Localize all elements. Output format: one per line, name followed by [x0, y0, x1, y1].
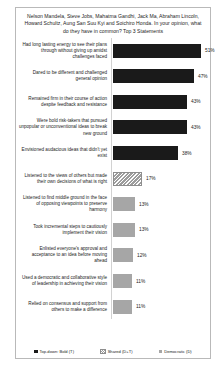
legend-label: Shared (D+T)	[108, 349, 133, 354]
bar-row: Remained firm in their course of action …	[18, 89, 206, 115]
bar-fill	[113, 248, 133, 262]
bar-track: 12%	[111, 243, 206, 269]
bar-value-label: 47%	[198, 74, 208, 79]
bar-category-label: Took incremental steps to cautiously imp…	[18, 224, 111, 236]
legend-item-top-down: Top-down: Bold (T)	[34, 349, 74, 354]
bar-track: 11%	[111, 268, 206, 294]
bar-value-label: 38%	[182, 151, 192, 156]
bar-row: Took incremental steps to cautiously imp…	[18, 217, 206, 243]
bar-category-label: Remained firm in their course of action …	[18, 96, 111, 108]
legend-item-shared: Shared (D+T)	[100, 349, 132, 354]
bar-row: Were bold risk-takers that pursued unpop…	[18, 115, 206, 141]
bar-track: 13%	[111, 191, 206, 217]
bar-category-label: Enlisted everyone's approval and accepta…	[18, 246, 111, 264]
bar-value-label: 17%	[146, 176, 156, 181]
bar-fill	[113, 300, 132, 314]
bar-value-label: 43%	[191, 125, 201, 130]
bar-fill	[113, 120, 187, 134]
bar-category-label: Dared to be different and challenged gen…	[18, 70, 111, 82]
bar-category-label: Used a democratic and collaborative styl…	[18, 275, 111, 287]
bar-category-label: Were bold risk-takers that pursued unpop…	[18, 118, 111, 136]
bar-row: Used a democratic and collaborative styl…	[18, 268, 206, 294]
bar-value-label: 43%	[191, 99, 201, 104]
bar-value-label: 13%	[139, 227, 149, 232]
bar-value-label: 13%	[139, 202, 149, 207]
bar-fill	[113, 95, 187, 109]
bar-chart-plot-area: Had long lasting energy to see their pla…	[16, 38, 210, 320]
bar-fill	[113, 172, 142, 186]
legend-swatch-icon	[34, 350, 37, 353]
bar-value-label: 11%	[136, 304, 145, 309]
bar-row: Enlisted everyone's approval and accepta…	[18, 243, 206, 269]
bar-category-label: Had long lasting energy to see their pla…	[18, 42, 111, 60]
bar-row: Relied on consensus and support from oth…	[18, 294, 206, 320]
bar-track: 43%	[111, 89, 206, 115]
bar-fill	[113, 274, 132, 288]
bar-fill	[113, 44, 201, 58]
bar-category-label: Envisioned audacious ideas that didn't y…	[18, 147, 111, 159]
bar-fill	[113, 223, 135, 237]
bar-category-label: Listened to find middle ground in the fa…	[18, 195, 111, 213]
chart-title: Nelson Mandela, Steve Jobs, Mahatma Gand…	[16, 8, 210, 38]
bar-value-label: 11%	[136, 279, 145, 284]
bar-track: 17%	[111, 166, 206, 192]
legend-swatch-icon	[100, 349, 105, 354]
bar-category-label: Relied on consensus and support from oth…	[18, 301, 111, 313]
chart-legend: Top-down: Bold (T) Shared (D+T) Democrat…	[16, 349, 210, 354]
bar-track: 43%	[111, 115, 206, 141]
bar-row: Had long lasting energy to see their pla…	[18, 38, 206, 64]
bar-row: Listened to find middle ground in the fa…	[18, 191, 206, 217]
bar-row: Envisioned audacious ideas that didn't y…	[18, 140, 206, 166]
bar-fill	[113, 197, 135, 211]
legend-item-democratic: Democratic (D)	[159, 349, 192, 354]
bar-track: 38%	[111, 140, 206, 166]
chart-card: Nelson Mandela, Steve Jobs, Mahatma Gand…	[15, 7, 211, 359]
bar-track: 47%	[111, 63, 208, 89]
bar-row: Dared to be different and challenged gen…	[18, 63, 206, 89]
legend-label: Democratic (D)	[164, 349, 192, 354]
bar-track: 11%	[111, 294, 206, 320]
bar-category-label: Listened to the views of others but made…	[18, 173, 111, 185]
bar-track: 51%	[111, 38, 215, 64]
bar-fill	[113, 146, 178, 160]
legend-swatch-icon	[159, 350, 162, 353]
bar-track: 13%	[111, 217, 206, 243]
legend-label: Top-down: Bold (T)	[39, 349, 74, 354]
bar-fill	[113, 69, 194, 83]
bar-value-label: 51%	[205, 48, 215, 53]
bar-row: Listened to the views of others but made…	[18, 166, 206, 192]
bar-value-label: 12%	[137, 253, 147, 258]
